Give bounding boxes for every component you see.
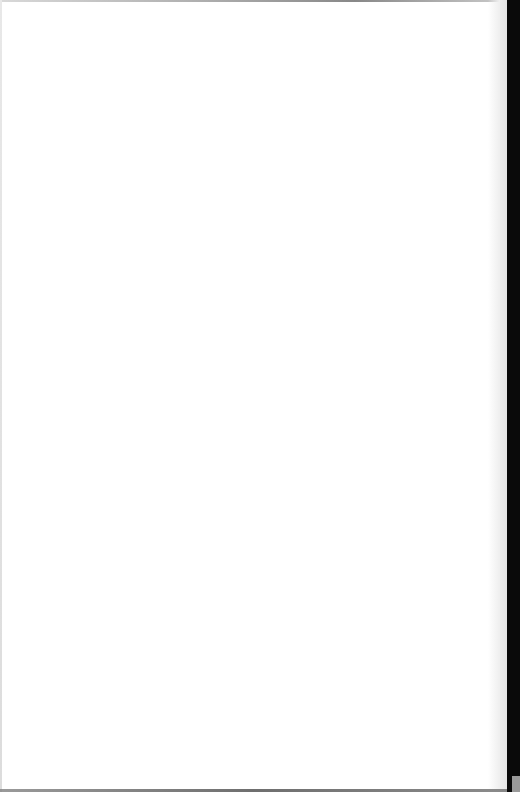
page-content (40, 40, 447, 752)
spine-corner (512, 776, 520, 792)
page-left-edge (0, 0, 2, 792)
gutter-shadow (488, 0, 507, 792)
book-spine-edge (507, 0, 520, 792)
page-top-edge (0, 0, 507, 2)
blank-page (0, 0, 507, 792)
